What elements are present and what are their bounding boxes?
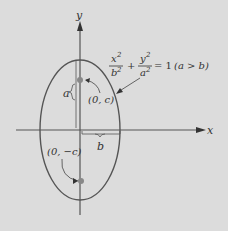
focus-top-label: (0, c)	[88, 94, 114, 105]
ellipse-diagram: x y a b (0, c) (0, −c) x 2 b 2 + y 2 a 2…	[0, 0, 235, 231]
svg-text:y: y	[139, 53, 146, 64]
x-axis-label: x	[207, 124, 214, 137]
focus-top-point	[77, 77, 83, 83]
b-label: b	[97, 140, 104, 153]
diagram-canvas: x y a b (0, c) (0, −c) x 2 b 2 + y 2 a 2…	[0, 0, 235, 231]
svg-text:(a > b): (a > b)	[174, 60, 209, 71]
focus-bottom-label: (0, −c)	[47, 146, 82, 157]
panel-background	[0, 0, 228, 231]
svg-text:2: 2	[145, 51, 151, 59]
svg-text:+: +	[127, 60, 135, 71]
svg-text:2: 2	[116, 66, 122, 74]
y-axis-label: y	[75, 9, 83, 22]
a-label: a	[63, 87, 70, 100]
svg-text:2: 2	[145, 66, 151, 74]
focus-bottom-point	[78, 178, 84, 184]
svg-text:2: 2	[116, 51, 122, 59]
svg-text:= 1: = 1	[154, 60, 172, 71]
